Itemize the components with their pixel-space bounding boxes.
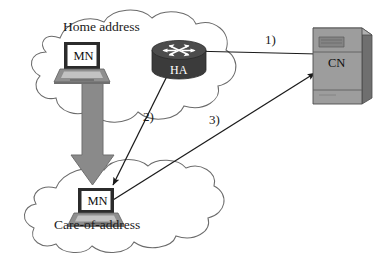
- node-label-mn-foreign: MN: [88, 195, 108, 208]
- flow-3-line: [105, 73, 315, 205]
- cloud-label-care-of-address: Care-of-address: [54, 218, 140, 232]
- node-label-mn-home: MN: [74, 50, 94, 63]
- mn-move-arrow: [71, 76, 114, 185]
- node-label-cn: CN: [328, 57, 345, 70]
- flow-1-line: [189, 51, 318, 54]
- cloud-foreign-network: [24, 160, 224, 253]
- flow-label-3: 3): [209, 113, 220, 126]
- flow-label-1: 1): [265, 33, 276, 46]
- flow-2-line: [113, 70, 170, 185]
- flow-label-2: 2): [143, 110, 154, 123]
- cloud-label-home-address: Home address: [63, 20, 140, 34]
- network-diagram: Home address Care-of-address MN HA CN MN…: [0, 0, 388, 268]
- node-label-ha: HA: [170, 64, 187, 76]
